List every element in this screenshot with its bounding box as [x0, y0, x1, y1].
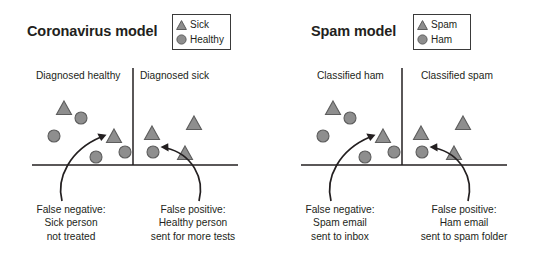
caption-line-2: Sick person — [16, 216, 126, 229]
caption-heading: False positive: — [128, 203, 258, 216]
caption-false-negative: False negative: Spam email sent to inbox — [285, 203, 395, 243]
caption-heading: False positive: — [397, 203, 531, 216]
caption-line-3: sent for more tests — [128, 230, 258, 243]
caption-false-positive: False positive: Healthy person sent for … — [128, 203, 258, 243]
caption-line-2: Spam email — [285, 216, 395, 229]
false-negative-arrow — [61, 134, 107, 201]
false-positive-arrow — [161, 143, 201, 201]
caption-false-positive: False positive: Ham email sent to spam f… — [397, 203, 531, 243]
caption-heading: False negative: — [285, 203, 395, 216]
false-positive-arrow — [430, 143, 470, 201]
caption-heading: False negative: — [16, 203, 126, 216]
caption-line-2: Ham email — [397, 216, 531, 229]
caption-false-negative: False negative: Sick person not treated — [16, 203, 126, 243]
caption-line-3: not treated — [16, 230, 126, 243]
panel-spam-model: Spam model Spam Ham Classified ham Class… — [269, 0, 538, 261]
caption-line-2: Healthy person — [128, 216, 258, 229]
caption-line-3: sent to inbox — [285, 230, 395, 243]
false-negative-arrow — [330, 134, 376, 201]
caption-line-3: sent to spam folder — [397, 230, 531, 243]
panel-coronavirus-model: Coronavirus model Sick Healthy Diagnosed… — [0, 0, 269, 261]
